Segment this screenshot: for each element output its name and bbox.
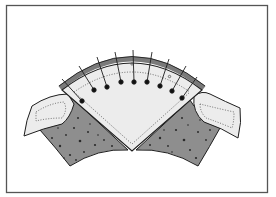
- sewing-illustration: [0, 0, 276, 197]
- illustration-canvas: [0, 0, 276, 197]
